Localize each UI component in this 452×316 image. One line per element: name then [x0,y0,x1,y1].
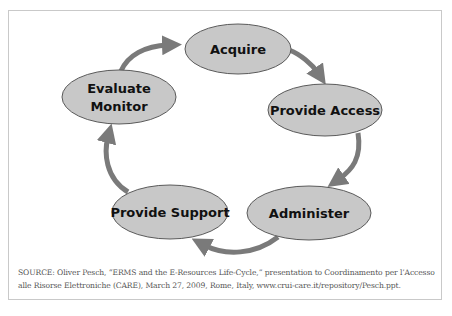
node-label: Acquire [210,42,266,57]
node-label: Administer [269,206,350,221]
arrow-acquire-to-provide-access [289,50,318,73]
node-label-line2: Monitor [90,99,148,114]
node-administer: Administer [247,186,371,240]
node-provide-access: Provide Access [268,84,382,136]
node-evaluate-monitor: Evaluate Monitor [62,70,176,124]
node-acquire: Acquire [185,24,291,74]
source-line-2: alle Risorse Elettroniche (CARE), March … [18,279,438,292]
source-line-1: SOURCE: Oliver Pesch, “ERMS and the E-Re… [18,266,438,279]
node-provide-support: Provide Support [110,185,229,239]
source-citation: SOURCE: Oliver Pesch, “ERMS and the E-Re… [18,266,438,292]
node-label: Provide Access [270,103,380,118]
arrow-provide-support-to-evaluate [106,137,128,192]
arrow-administer-to-provide-support [204,237,278,252]
node-label: Provide Support [110,205,229,220]
arrow-evaluate-to-acquire [121,45,168,71]
node-label-line1: Evaluate [87,81,151,96]
arrow-provide-access-to-administer [339,133,359,179]
